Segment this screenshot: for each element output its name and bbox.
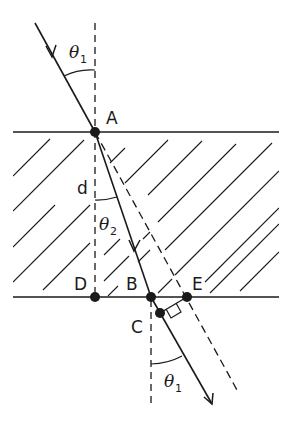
arrow-icon [129,240,140,251]
svg-text:1: 1 [175,382,182,395]
point-A [90,127,100,137]
svg-text:θ: θ [99,214,109,234]
label-D: D [74,274,87,294]
label-E: E [192,274,203,294]
label-A: A [106,108,118,128]
angle-arc-theta2 [95,197,117,200]
refraction-diagram: A D B E C d θ 1 θ 2 θ 1 [0,0,300,428]
point-D [90,292,100,302]
point-B [146,292,156,302]
svg-text:2: 2 [110,225,117,238]
label-thickness: d [77,178,88,198]
svg-text:1: 1 [80,53,87,66]
angle-arc-theta1-top [64,70,95,76]
label-theta1-bottom: θ 1 [164,371,182,395]
angle-arc-theta1-bottom [151,356,182,364]
svg-text:θ: θ [69,42,79,62]
incident-ray [35,23,95,132]
label-theta1-top: θ 1 [69,42,87,66]
point-E [182,292,192,302]
label-C: C [131,317,143,337]
undeviated-path [95,132,237,390]
label-theta2: θ 2 [99,214,117,238]
svg-text:θ: θ [164,371,174,391]
slab-hatching [13,139,279,296]
point-C [155,308,165,318]
label-B: B [126,274,138,294]
